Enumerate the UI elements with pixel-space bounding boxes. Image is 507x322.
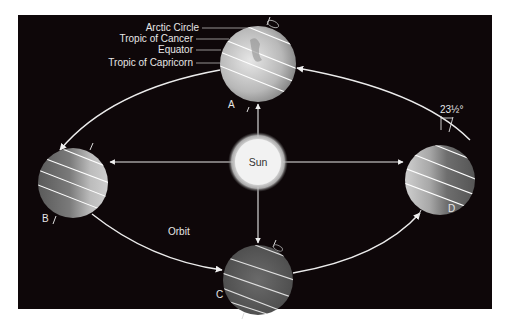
orbit-diagram: Sun A Arctic Circle Tropic of Cancer Equ… [0, 0, 507, 322]
sun: Sun [228, 132, 288, 192]
earth-d: D 23½° [404, 104, 478, 217]
tilt-angle-indicator [441, 116, 453, 132]
earth-c: C [216, 240, 300, 319]
position-label-b: B [42, 213, 49, 224]
label-tropic-of-capricorn: Tropic of Capricorn [108, 57, 193, 68]
position-label-c: C [216, 289, 223, 300]
label-equator: Equator [158, 44, 194, 55]
earth-b: B [38, 143, 115, 224]
earth-a: A [220, 17, 300, 112]
position-label-a: A [228, 99, 235, 110]
sun-label: Sun [249, 156, 268, 168]
orbit-label: Orbit [168, 226, 190, 237]
label-tropic-of-cancer: Tropic of Cancer [119, 33, 193, 44]
position-label-d: D [448, 203, 455, 214]
label-arctic-circle: Arctic Circle [146, 22, 200, 33]
tilt-label: 23½° [440, 104, 463, 115]
